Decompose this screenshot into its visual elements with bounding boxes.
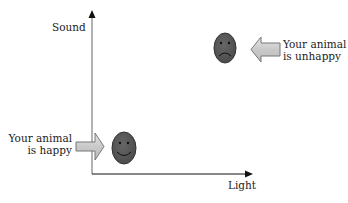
x-axis-label: Light xyxy=(228,179,256,191)
unhappy-annotation: Your animal is unhappy xyxy=(283,38,346,62)
y-axis-label: Sound xyxy=(52,21,86,33)
x-axis-arrowhead-icon xyxy=(245,171,253,178)
unhappy-annotation-line1: Your animal xyxy=(283,38,346,50)
happy-annotation-line1: Your animal xyxy=(9,132,72,144)
sad-face-icon xyxy=(214,33,236,63)
arrow-left-icon xyxy=(251,37,280,62)
unhappy-annotation-line2: is unhappy xyxy=(283,50,346,62)
x-axis xyxy=(92,171,253,178)
y-axis-arrowhead-icon xyxy=(89,10,96,18)
smiley-face-icon xyxy=(112,132,136,164)
happy-annotation: Your animal is happy xyxy=(9,132,72,156)
arrow-right-icon xyxy=(76,133,104,160)
happy-annotation-line2: is happy xyxy=(9,144,72,156)
